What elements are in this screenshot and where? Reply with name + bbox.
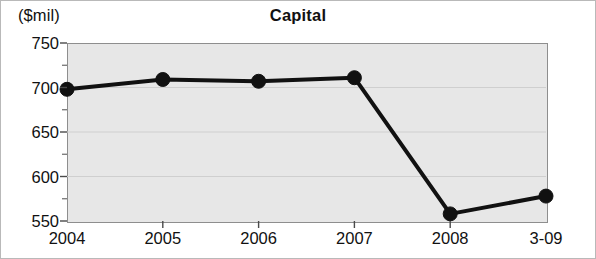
chart-title: Capital: [1, 6, 595, 25]
data-point-2007: [347, 71, 361, 85]
x-tick-label-3-09: 3-09: [529, 229, 562, 248]
y-tick-label-700: 700: [13, 78, 59, 97]
x-tick-label-2006: 2006: [240, 229, 277, 248]
data-point-3-09: [539, 189, 553, 203]
y-tick-label-650: 650: [13, 123, 59, 142]
gridlines: [67, 88, 546, 177]
y-tick-label-750: 750: [13, 34, 59, 53]
y-tick-label-550: 550: [13, 212, 59, 231]
x-tick-label-2007: 2007: [336, 229, 373, 248]
series-markers-capital: [60, 71, 553, 221]
data-point-2004: [60, 82, 74, 96]
x-tick-label-2004: 2004: [49, 229, 86, 248]
x-tick-label-2008: 2008: [432, 229, 469, 248]
plot-series-layer: [67, 43, 546, 221]
y-axis-tick-marks: [60, 43, 67, 221]
y-axis-tick-labels: 550600650700750: [1, 1, 59, 259]
data-point-2005: [156, 72, 170, 86]
x-tick-label-2005: 2005: [144, 229, 181, 248]
data-point-2008: [443, 207, 457, 221]
y-tick-label-600: 600: [13, 167, 59, 186]
data-point-2006: [252, 74, 266, 88]
chart-figure: ($mil) Capital 550600650700750 200420052…: [0, 0, 596, 259]
series-line-capital: [67, 78, 546, 214]
